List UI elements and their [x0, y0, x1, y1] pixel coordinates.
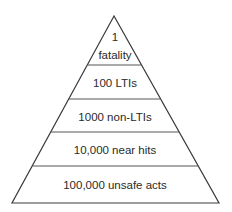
level-5-label: 100,000 unsafe acts — [63, 179, 167, 191]
pyramid-diagram: 1 fatality 100 LTIs 1000 non-LTIs 10,000… — [0, 0, 232, 212]
pyramid-outline — [12, 16, 219, 203]
level-1-count: 1 — [112, 31, 118, 43]
level-4-label: 10,000 near hits — [74, 144, 157, 156]
level-1-label: fatality — [98, 49, 131, 61]
level-2-label: 100 LTIs — [93, 77, 137, 89]
level-3-label: 1000 non-LTIs — [78, 111, 152, 123]
